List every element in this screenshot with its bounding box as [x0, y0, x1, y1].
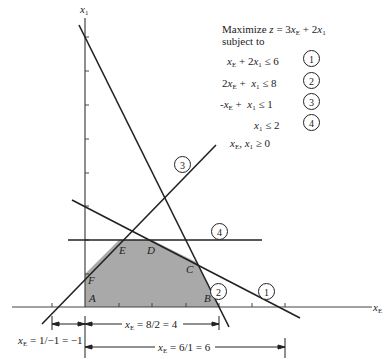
intercept-label-6: xE = 6/1 = 6 [158, 342, 210, 355]
intercept-label-neg1: xE = 1/−1 = −1 [18, 335, 83, 348]
constraint-2: 2xE + x1 ≤ 8 [222, 77, 277, 91]
y-axis-label: x1 [80, 4, 88, 17]
intercept-label-4: xE = 8/2 = 4 [125, 319, 177, 332]
constraint-id-2: 2 [303, 72, 320, 89]
x-axis-label: xE [373, 302, 382, 315]
vertex-label-f: F [88, 275, 95, 286]
constraint-4: x1 ≤ 2 [254, 119, 279, 133]
line-label-2: 2 [210, 283, 227, 300]
vertex-label-c: C [186, 264, 193, 275]
lp-graph [0, 0, 390, 359]
line-label-4: 4 [211, 223, 228, 240]
vertex-label-d: D [147, 245, 155, 256]
vertex-label-a: A [89, 293, 96, 304]
line-label-3: 3 [174, 156, 191, 173]
constraint-1: xE + 2x1 ≤ 6 [227, 55, 279, 69]
line-label-1: 1 [258, 283, 275, 300]
constraint-id-4: 4 [303, 114, 320, 131]
constraint-id-3: 3 [303, 93, 320, 110]
constraint-3: -xE + x1 ≤ 1 [220, 98, 273, 112]
subject-to: subject to [222, 35, 264, 47]
constraint-id-1: 1 [303, 50, 320, 67]
vertex-label-e: E [119, 245, 126, 256]
nonnegativity: xE, x1 ≥ 0 [230, 137, 270, 151]
